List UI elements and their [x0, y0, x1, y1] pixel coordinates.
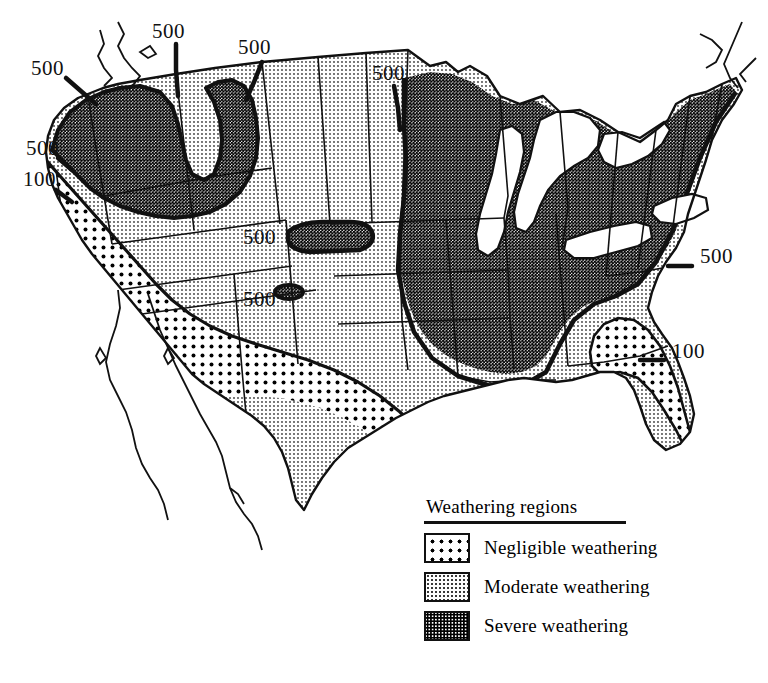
contour-label: 500 — [238, 35, 271, 59]
legend-item-severe: Severe weathering — [424, 611, 724, 641]
legend-title: Weathering regions — [424, 496, 724, 518]
legend-label-negligible: Negligible weathering — [484, 537, 658, 559]
contour-label: 100 — [23, 167, 56, 191]
contour-label: 500 — [372, 61, 405, 85]
legend-label-moderate: Moderate weathering — [484, 576, 650, 598]
contour-label: 500 — [700, 244, 733, 268]
legend-swatch-severe — [424, 611, 470, 641]
legend-swatch-moderate — [424, 572, 470, 602]
legend-label-severe: Severe weathering — [484, 615, 628, 637]
contour-label: 500 — [243, 225, 276, 249]
contour-label: 500 — [243, 287, 276, 311]
contour-label: 100 — [672, 339, 705, 363]
map-legend: Weathering regions Negligible weathering… — [424, 496, 724, 650]
contour-label: 500 — [31, 56, 64, 80]
legend-title-rule — [424, 521, 626, 524]
legend-item-negligible: Negligible weathering — [424, 533, 724, 563]
legend-item-moderate: Moderate weathering — [424, 572, 724, 602]
contour-label: 500 — [26, 136, 59, 160]
contour-label: 500 — [152, 19, 185, 43]
legend-swatch-negligible — [424, 533, 470, 563]
severe-weathering-island-black-hills — [288, 222, 373, 252]
